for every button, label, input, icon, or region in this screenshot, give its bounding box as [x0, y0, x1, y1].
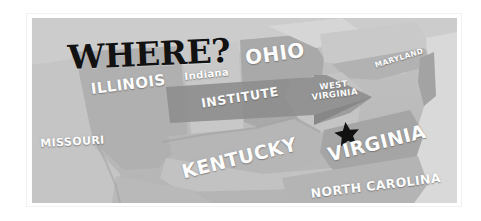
map-figure: INSTITUTE ILLINOIS Indiana OHIO MARYLAND…	[0, 0, 481, 221]
map-image: INSTITUTE ILLINOIS Indiana OHIO MARYLAND…	[32, 18, 457, 203]
page-title: WHERE?	[67, 31, 231, 77]
shape-delmarva	[418, 52, 436, 106]
map-label-missouri: MISSOURI	[40, 135, 105, 150]
